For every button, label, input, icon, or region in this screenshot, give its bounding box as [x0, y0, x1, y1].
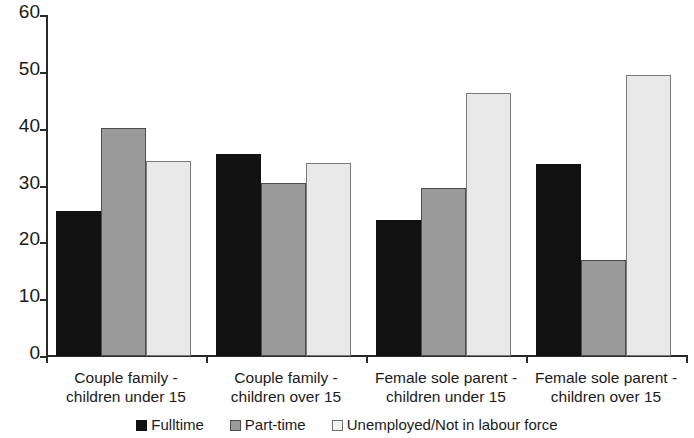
category-label-line-1: Female sole parent -: [375, 369, 517, 386]
bar-3-group-4: [626, 75, 671, 356]
bar-3-group-1: [146, 161, 191, 356]
legend-item-label: Unemployed/Not in labour force: [347, 417, 558, 433]
bar-2-group-2: [261, 183, 306, 356]
bar-1-group-4: [536, 164, 581, 356]
bar-3-group-3: [466, 93, 511, 356]
parttime-swatch: [230, 420, 241, 431]
legend-item-label: Fulltime: [151, 417, 204, 433]
x-axis-tick-mark: [46, 355, 48, 363]
x-axis-category-label: Couple family -children under 15: [46, 368, 206, 406]
category-label-line-1: Couple family -: [74, 369, 177, 386]
x-axis-tick-mark: [206, 355, 208, 363]
category-label-line-2: children under 15: [46, 387, 206, 406]
x-axis-category-label: Female sole parent -children over 15: [526, 368, 686, 406]
legend-item-1: Fulltime: [136, 417, 204, 433]
category-label-line-1: Couple family -: [234, 369, 337, 386]
bar-2-group-3: [421, 188, 466, 356]
category-label-line-2: children under 15: [366, 387, 526, 406]
bar-1-group-3: [376, 220, 421, 356]
bar-1-group-2: [216, 154, 261, 356]
category-label-line-1: Female sole parent -: [535, 369, 677, 386]
x-axis-category-label: Female sole parent -children under 15: [366, 368, 526, 406]
bar-2-group-1: [101, 128, 146, 356]
y-axis-tick-label: 30: [19, 173, 40, 192]
category-label-line-2: children over 15: [526, 387, 686, 406]
y-axis-tick-label: 50: [19, 59, 40, 78]
chart-legend: FulltimePart-timeUnemployed/Not in labou…: [0, 417, 694, 433]
category-label-line-2: children over 15: [206, 387, 366, 406]
bar-3-group-2: [306, 163, 351, 356]
x-axis-tick-mark: [366, 355, 368, 363]
legend-item-3: Unemployed/Not in labour force: [332, 417, 558, 433]
legend-item-label: Part-time: [245, 417, 306, 433]
plot-area: [46, 15, 686, 356]
bar-1-group-1: [56, 211, 101, 356]
y-axis-tick-label: 0: [29, 343, 40, 362]
legend-item-2: Part-time: [230, 417, 306, 433]
y-axis-tick-label: 20: [19, 229, 40, 248]
x-axis-tick-mark: [526, 355, 528, 363]
y-axis-tick-label: 40: [19, 116, 40, 135]
bar-2-group-4: [581, 260, 626, 356]
x-axis-tick-mark: [686, 355, 688, 363]
bar-chart: 6050403020100 Couple family -children un…: [0, 0, 694, 438]
unemployed-swatch: [332, 420, 343, 431]
y-axis-tick-label: 60: [19, 2, 40, 21]
y-axis-tick-label: 10: [19, 286, 40, 305]
fulltime-swatch: [136, 420, 147, 431]
x-axis-category-label: Couple family -children over 15: [206, 368, 366, 406]
